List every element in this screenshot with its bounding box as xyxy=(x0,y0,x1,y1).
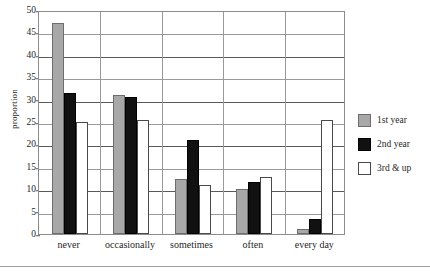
bars-layer xyxy=(39,12,344,234)
bar-occasionally-3rd-up xyxy=(137,120,149,234)
legend-item-1st-year: 1st year xyxy=(358,108,430,132)
y-axis-tick-25: 25 xyxy=(10,118,36,128)
legend-item-label: 2nd year xyxy=(377,139,410,149)
y-axis-tick-0: 0 xyxy=(10,230,36,240)
legend-item-label: 1st year xyxy=(377,115,407,125)
x-axis-label-never: never xyxy=(58,238,80,251)
bar-often-1st-year xyxy=(236,189,248,234)
y-axis-tick-10: 10 xyxy=(10,185,36,195)
bar-often-3rd-up xyxy=(260,177,272,234)
y-axis-tick-20: 20 xyxy=(10,141,36,151)
y-axis-tick-30: 30 xyxy=(10,96,36,106)
y-axis-tickmark xyxy=(36,235,40,236)
bottom-divider xyxy=(0,266,430,267)
legend-swatch-icon xyxy=(358,138,371,151)
bar-sometimes-1st-year xyxy=(175,179,187,234)
legend-item-3rd-up: 3rd & up xyxy=(358,156,430,180)
bar-every-day-1st-year xyxy=(297,229,309,234)
bar-sometimes-2nd-year xyxy=(187,140,199,234)
y-axis-tick-35: 35 xyxy=(10,73,36,83)
bar-chart-figure: proportion 05101520253035404550 neverocc… xyxy=(0,0,430,273)
x-axis-category-labels: neveroccasionallysometimesoftenevery day xyxy=(38,238,345,254)
bar-never-3rd-up xyxy=(76,122,88,234)
x-axis-label-sometimes: sometimes xyxy=(170,238,213,251)
bar-every-day-3rd-up xyxy=(321,120,333,234)
bar-occasionally-1st-year xyxy=(113,95,125,234)
y-axis-tick-labels: 05101520253035404550 xyxy=(8,11,36,235)
y-axis-tick-5: 5 xyxy=(10,208,36,218)
legend-item-2nd-year: 2nd year xyxy=(358,132,430,156)
bar-every-day-2nd-year xyxy=(309,219,321,234)
x-axis-label-often: often xyxy=(243,238,264,251)
y-axis-tick-15: 15 xyxy=(10,163,36,173)
bar-sometimes-3rd-up xyxy=(199,185,211,234)
legend-item-label: 3rd & up xyxy=(377,163,411,173)
x-axis-label-every-day: every day xyxy=(295,238,334,251)
bar-never-1st-year xyxy=(52,23,64,234)
y-axis-tick-40: 40 xyxy=(10,51,36,61)
x-axis-label-occasionally: occasionally xyxy=(105,238,155,251)
bar-never-2nd-year xyxy=(64,93,76,234)
legend-swatch-icon xyxy=(358,162,371,175)
y-axis-tick-50: 50 xyxy=(10,6,36,16)
plot-area xyxy=(38,11,345,235)
y-axis-tick-45: 45 xyxy=(10,29,36,39)
chart-legend: 1st year2nd year3rd & up xyxy=(358,108,430,180)
bar-occasionally-2nd-year xyxy=(125,97,137,234)
legend-swatch-icon xyxy=(358,114,371,127)
bar-often-2nd-year xyxy=(248,182,260,234)
